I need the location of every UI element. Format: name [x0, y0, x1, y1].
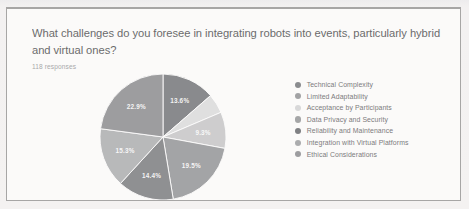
- legend-item: Acceptance by Participants: [290, 102, 460, 114]
- pie-slices: [100, 74, 226, 200]
- pie-slice-value-label: 15.3%: [116, 147, 135, 154]
- legend-item: Limited Adaptability: [290, 91, 460, 103]
- legend-item: Data Privacy and Security: [290, 114, 460, 126]
- question-title: What challenges do you foresee in integr…: [32, 25, 444, 58]
- page-background: What challenges do you foresee in integr…: [0, 0, 469, 209]
- pie-slice-value-label: 9.3%: [195, 129, 210, 136]
- chart-area: 13.6%9.3%19.5%14.4%15.3%22.9% Technical …: [7, 71, 461, 201]
- legend-item: Ethical Considerations: [290, 149, 460, 161]
- legend-item-label: Data Privacy and Security: [307, 114, 388, 126]
- legend-item-label: Ethical Considerations: [307, 149, 377, 161]
- pie-slice-value-label: 13.6%: [170, 97, 189, 104]
- legend-color-dot-icon: [295, 151, 301, 157]
- legend-item: Integration with Virtual Platforms: [290, 137, 460, 149]
- pie-slice-value-label: 14.4%: [142, 172, 161, 179]
- legend-item-label: Technical Complexity: [307, 79, 373, 91]
- legend-item-label: Reliability and Maintenance: [307, 125, 393, 137]
- legend-color-dot-icon: [295, 140, 301, 146]
- legend-item: Technical Complexity: [290, 79, 460, 91]
- legend-color-dot-icon: [295, 93, 301, 99]
- legend-color-dot-icon: [295, 105, 301, 111]
- form-response-card: What challenges do you foresee in integr…: [6, 7, 461, 201]
- pie-chart-svg: 13.6%9.3%19.5%14.4%15.3%22.9%: [93, 71, 233, 201]
- legend-item-label: Acceptance by Participants: [307, 102, 392, 114]
- response-count: 118 responses: [32, 62, 444, 71]
- question-block: What challenges do you foresee in integr…: [32, 25, 444, 71]
- chart-legend: Technical ComplexityLimited Adaptability…: [290, 79, 460, 160]
- legend-item-label: Integration with Virtual Platforms: [307, 137, 409, 149]
- legend-color-dot-icon: [295, 128, 301, 134]
- pie-chart: 13.6%9.3%19.5%14.4%15.3%22.9%: [93, 71, 233, 201]
- legend-color-dot-icon: [295, 116, 301, 122]
- legend-item-label: Limited Adaptability: [307, 91, 368, 103]
- legend-color-dot-icon: [295, 82, 301, 88]
- pie-slice-value-label: 22.9%: [127, 103, 146, 110]
- pie-slice-value-label: 19.5%: [182, 162, 201, 169]
- legend-item: Reliability and Maintenance: [290, 125, 460, 137]
